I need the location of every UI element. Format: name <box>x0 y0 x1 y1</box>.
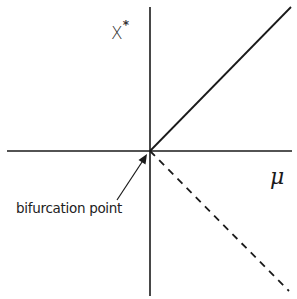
unstable-branch-line <box>150 151 289 291</box>
y-axis-label-text: X <box>111 23 123 43</box>
stable-branch-line <box>150 7 291 151</box>
y-axis-label: X* <box>111 22 129 42</box>
arrowhead-icon <box>139 154 148 165</box>
annotation-arrow <box>117 159 144 200</box>
bifurcation-diagram <box>0 0 297 299</box>
x-axis-label: μ <box>270 166 284 188</box>
bifurcation-point-label: bifurcation point <box>16 202 122 216</box>
y-axis-label-superscript: * <box>123 18 129 32</box>
